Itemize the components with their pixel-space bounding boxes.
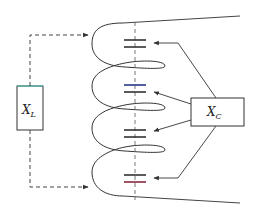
xc-arrow-cap1 bbox=[154, 43, 216, 98]
xl-subscript: L bbox=[30, 110, 36, 119]
xc-subscript: C bbox=[216, 112, 222, 121]
coil-turn-4 bbox=[92, 172, 123, 196]
coil-turn-1 bbox=[92, 23, 165, 86]
bottom-lead-wire bbox=[123, 196, 240, 203]
capacitor-reactance-box: XC bbox=[191, 98, 244, 126]
inductor-reactance-box: XL bbox=[17, 86, 43, 130]
xl-arrow-top bbox=[30, 35, 88, 86]
xc-arrow-cap3 bbox=[154, 120, 191, 131]
xc-arrow-cap4 bbox=[154, 126, 216, 178]
top-lead-wire bbox=[123, 16, 240, 23]
xc-arrow-cap2 bbox=[154, 92, 191, 104]
xl-arrow-bottom bbox=[30, 130, 88, 187]
helical-coil bbox=[92, 23, 165, 196]
coil-turn-3 bbox=[92, 128, 165, 172]
resonator-diagram: XL XC bbox=[0, 0, 255, 214]
xl-label: X bbox=[21, 103, 31, 117]
xc-label: X bbox=[206, 105, 216, 119]
